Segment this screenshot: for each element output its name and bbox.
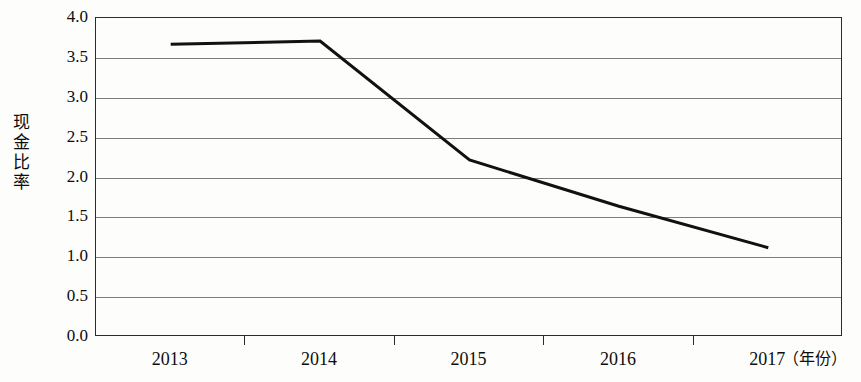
y-axis-title: 现 金 比 率 bbox=[6, 112, 36, 192]
x-tick-label: 2014 bbox=[259, 349, 379, 369]
y-axis-title-char: 比 bbox=[6, 152, 36, 172]
y-tick-label: 3.0 bbox=[40, 88, 88, 105]
x-axis-tick bbox=[543, 336, 544, 345]
y-tick-label: 1.0 bbox=[40, 247, 88, 264]
y-axis-title-char: 现 bbox=[6, 112, 36, 132]
y-tick-label: 1.5 bbox=[40, 207, 88, 224]
x-axis-tick bbox=[394, 336, 395, 345]
y-axis-title-char: 率 bbox=[6, 172, 36, 192]
y-tick-label: 2.0 bbox=[40, 168, 88, 185]
y-tick-label: 0.0 bbox=[40, 327, 88, 344]
series-polyline bbox=[171, 41, 769, 248]
y-tick-label: 4.0 bbox=[40, 8, 88, 25]
x-tick-label: 2015 bbox=[409, 349, 529, 369]
x-axis-tick bbox=[693, 336, 694, 345]
x-axis-unit-label: （年份） bbox=[783, 349, 847, 369]
x-axis-tick bbox=[244, 336, 245, 345]
x-tick-label: 2013 bbox=[110, 349, 230, 369]
y-axis-tick-labels: 4.03.53.02.52.01.51.00.50.0 bbox=[36, 0, 88, 382]
y-tick-label: 0.5 bbox=[40, 287, 88, 304]
y-axis-title-char: 金 bbox=[6, 132, 36, 152]
plot-area bbox=[95, 17, 842, 336]
cash-ratio-line-chart: 现 金 比 率 4.03.53.02.52.01.51.00.50.0 2013… bbox=[0, 0, 861, 382]
y-tick-label: 3.5 bbox=[40, 48, 88, 65]
series-line-cash-ratio bbox=[96, 18, 843, 337]
y-tick-label: 2.5 bbox=[40, 128, 88, 145]
x-tick-label: 2016 bbox=[558, 349, 678, 369]
